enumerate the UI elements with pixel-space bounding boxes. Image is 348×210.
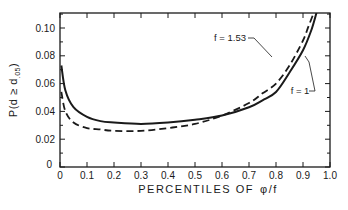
x-tick-label: 0.6 — [215, 170, 229, 181]
x-tick-label: 0.3 — [134, 170, 148, 181]
x-tick-label: 0.8 — [269, 170, 283, 181]
annotation-f1: f = 1 — [291, 56, 315, 96]
series-f153-dashed-line — [61, 13, 313, 131]
x-tick-label: 0.5 — [188, 170, 202, 181]
x-tick-label: 0.9 — [296, 170, 310, 181]
x-axis-ticks: 00.10.20.30.40.50.60.70.80.91.0 — [57, 13, 337, 181]
y-tick-label: 0.02 — [36, 134, 56, 145]
x-tick-label: 0.2 — [107, 170, 121, 181]
annotation-f153: f = 1.53 — [214, 32, 272, 57]
x-tick-label: 0.1 — [80, 170, 94, 181]
y-tick-label: 0.08 — [36, 50, 56, 61]
x-axis-title: PERCENTILES OFφ/f — [138, 183, 278, 195]
axes-frame — [60, 13, 330, 167]
svg-text:f = 1.53: f = 1.53 — [214, 32, 246, 43]
plot-series — [61, 13, 316, 131]
x-tick-label: 0.4 — [161, 170, 175, 181]
x-tick-label: 1.0 — [323, 170, 337, 181]
y-tick-label: 0.06 — [36, 78, 56, 89]
x-tick-label: 0 — [57, 170, 63, 181]
y-tick-label: 0 — [46, 159, 52, 170]
y-tick-label: 0.10 — [36, 23, 56, 34]
x-tick-label: 0.7 — [242, 170, 256, 181]
y-tick-label: 0.04 — [36, 106, 56, 117]
line-chart: 00.020.040.060.080.10 00.10.20.30.40.50.… — [0, 0, 348, 210]
series-f1-solid-line — [61, 13, 316, 124]
y-axis-title: P(d ≥ d.05) — [7, 63, 21, 117]
y-axis-ticks: 00.020.040.060.080.10 — [36, 14, 330, 170]
svg-text:f = 1: f = 1 — [291, 85, 310, 96]
